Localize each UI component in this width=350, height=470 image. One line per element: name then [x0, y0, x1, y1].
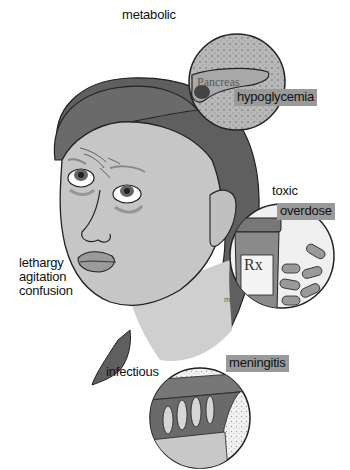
cause-meningitis: meningitis [226, 355, 289, 372]
category-toxic: toxic [272, 184, 298, 198]
symptom-lethargy: lethargy [19, 256, 73, 270]
patient-illustration [0, 0, 350, 470]
artist-signature: mjw [224, 294, 239, 304]
rx-label: Rx [244, 256, 263, 274]
infectious-inset [150, 368, 260, 470]
pancreas-label: Pancreas [197, 75, 240, 90]
symptom-agitation: agitation [19, 270, 73, 284]
symptom-confusion: confusion [19, 284, 73, 298]
category-metabolic: metabolic [122, 8, 176, 22]
symptoms-list: lethargy agitation confusion [19, 256, 73, 298]
cause-overdose: overdose [277, 203, 335, 220]
category-infectious: infectious [106, 365, 159, 379]
rx-text: Rx [244, 256, 263, 273]
cause-hypoglycemia: hypoglycemia [234, 89, 317, 106]
illustration-canvas: metabolic Pancreas hypoglycemia toxic ov… [0, 0, 350, 470]
